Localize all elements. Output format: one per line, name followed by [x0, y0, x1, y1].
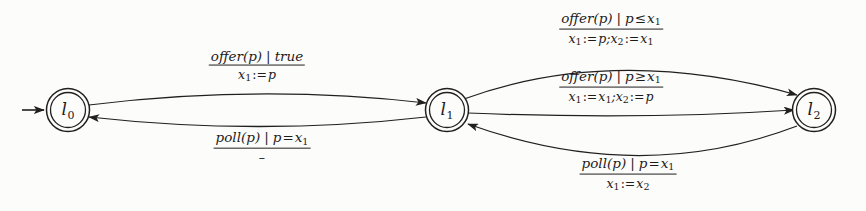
transition-label-l2-l1: poll(p)|p=x1 x1:=x2 — [580, 155, 677, 194]
transition-guard-l0-l1: offer(p)|true — [209, 48, 305, 66]
state-node-l2[interactable] — [793, 89, 836, 132]
transition-edge-l0-l1[interactable] — [89, 94, 426, 105]
transition-guard-l1-l0: poll(p)|p=x1 — [214, 129, 311, 149]
transition-assignment-l1-l2-upper: x1:=p;x2:=x1 — [559, 30, 663, 48]
transition-label-l1-l2-upper: offer(p)|p≤x1 x1:=p;x2:=x1 — [559, 10, 663, 49]
transition-guard-l2-l1: poll(p)|p=x1 — [580, 155, 677, 175]
diagram-canvas — [0, 0, 866, 211]
transition-assignment-l0-l1: x1:=p — [209, 66, 305, 84]
transition-label-l0-l1: offer(p)|true x1:=p — [209, 48, 305, 85]
state-node-l0[interactable] — [47, 89, 90, 132]
automaton-diagram: l0 l1 l2 offer(p)|true x1:=p poll(p)|p=x… — [0, 0, 866, 211]
transition-label-l1-l2-middle: offer(p)|p≥x1 x1:=x1;x2:=p — [559, 68, 663, 107]
transition-guard-l1-l2-upper: offer(p)|p≤x1 — [559, 10, 663, 30]
transition-assignment-l1-l2-middle: x1:=x1;x2:=p — [559, 88, 663, 106]
transition-edge-l1-l0[interactable] — [89, 117, 426, 127]
transition-label-l1-l0: poll(p)|p=x1 – — [214, 129, 311, 166]
transition-assignment-l2-l1: x1:=x2 — [580, 175, 677, 193]
transition-guard-l1-l2-middle: offer(p)|p≥x1 — [559, 68, 663, 88]
transition-assignment-l1-l0: – — [214, 149, 311, 165]
transition-edge-l2-l1[interactable] — [468, 124, 797, 156]
transition-edge-l1-l2-middle[interactable] — [468, 110, 794, 116]
state-node-l1[interactable] — [426, 89, 469, 132]
